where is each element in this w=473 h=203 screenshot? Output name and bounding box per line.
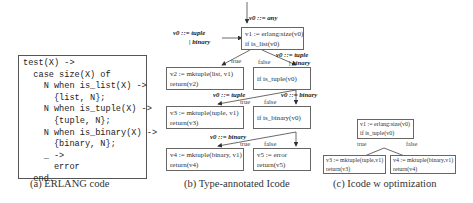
edge-label-true: true — [357, 141, 366, 147]
annotation-n3-in-1: v0 ::= tuple — [276, 51, 308, 59]
node-b3: if is_tuple(v0) — [253, 67, 311, 90]
edge-label-true: true — [240, 140, 250, 147]
annotation-entry: v0 ::= any — [249, 14, 277, 22]
node-c1: v1 := erlang:size(v0)if is_tuple(v0) — [357, 119, 414, 139]
annotation-n5-in: v0 ::= binary — [281, 91, 317, 99]
node-b4: v3 := mktuple(tuple, v1)return(v3) — [166, 106, 244, 129]
edge-label-true: true — [231, 57, 241, 64]
caption-b: (b) Type-annotated Icode — [184, 178, 290, 189]
edge-label-false: false — [264, 140, 276, 147]
edge-label-false: false — [258, 58, 270, 65]
node-b2: v2 := mktuple(list, v1)return(v2) — [166, 67, 244, 90]
node-b5: if is_binary(v0) — [253, 106, 311, 129]
node-b1: v1 := erlang:size(v0)if is_list(v0) — [241, 27, 304, 50]
node-b7: v5 := errorreturn(v5) — [253, 148, 311, 171]
node-c2: v3 := mktuple(tuple,v1)return(v3) — [323, 155, 386, 174]
annotation-n1-in-2: | binary — [189, 38, 210, 46]
edge-label-true: true — [240, 98, 250, 105]
annotation-n1-in-1: v0 ::= tuple — [173, 29, 205, 37]
edge-label-false: false — [264, 98, 276, 105]
annotation-n3-in-2: | binary — [289, 59, 310, 67]
node-b6: v4 := mktuple(binary, v1)return(v4) — [166, 148, 244, 171]
caption-c: (c) Icode w optimization — [333, 178, 437, 189]
node-c3: v4 := mktuple(binary,v1)return(v4) — [390, 155, 456, 174]
edge-label-false: false — [406, 141, 417, 147]
